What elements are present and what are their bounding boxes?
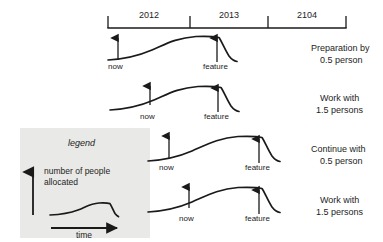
- feature-label-row-3: feature: [245, 164, 270, 172]
- phase-label-row-4-line2: 1.5 persons: [316, 207, 363, 219]
- curve-row-4: [148, 187, 280, 214]
- legend-y-axis-label-line1: number of people: [44, 166, 110, 177]
- curve-row-1: [108, 36, 237, 62]
- year-label-2012: 2012: [129, 11, 169, 20]
- now-label-row-1: now: [108, 63, 123, 71]
- year-label-2104: 2104: [287, 11, 327, 20]
- legend-sample-curve: [50, 203, 119, 217]
- phase-label-row-1-line2: 0.5 person: [320, 55, 363, 67]
- legend-title: legend: [68, 139, 95, 148]
- now-label-row-3: now: [159, 164, 174, 172]
- phase-label-row-4-line1: Work with: [320, 195, 359, 207]
- legend-y-axis-label-line2: allocated: [44, 177, 78, 188]
- now-label-row-4: now: [179, 215, 194, 223]
- feature-label-row-2: feature: [204, 113, 229, 121]
- phase-label-row-3-line1: Continue with: [311, 144, 366, 156]
- phase-label-row-1-line1: Preparation by: [311, 43, 370, 55]
- now-label-row-2: now: [140, 113, 155, 121]
- feature-label-row-1: feature: [203, 63, 228, 71]
- year-label-2013: 2013: [209, 11, 249, 20]
- curve-row-2: [110, 86, 239, 112]
- curve-row-3: [148, 136, 280, 163]
- phase-label-row-2-line1: Work with: [320, 93, 359, 105]
- feature-label-row-4: feature: [245, 215, 270, 223]
- phase-label-row-2-line2: 1.5 persons: [316, 105, 363, 117]
- phase-label-row-3-line2: 0.5 person: [320, 156, 363, 168]
- legend-x-axis-label: time: [76, 231, 92, 240]
